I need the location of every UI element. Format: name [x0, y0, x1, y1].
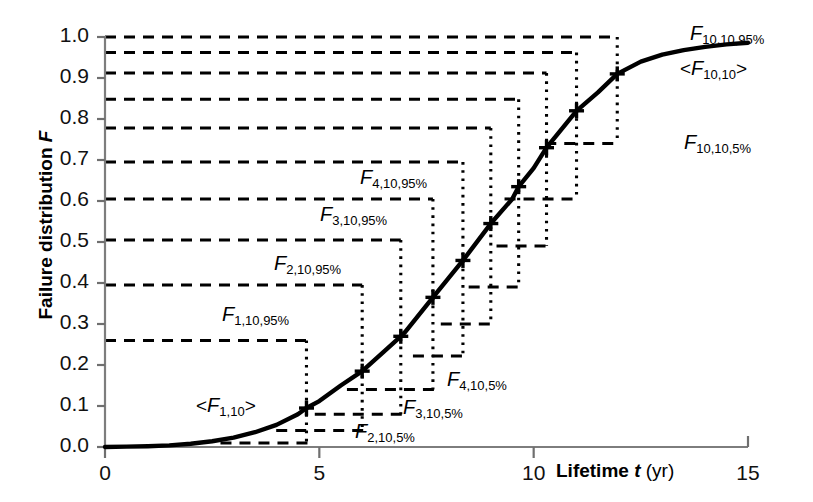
- y-tick-label: 0.1: [33, 392, 89, 416]
- annotation-symbol: F: [222, 303, 234, 325]
- annotation-subscript: 10,10,5%: [696, 141, 751, 156]
- angle-bracket-close: >: [245, 395, 256, 416]
- figure-root: 0.0 0.1 0.2 0.3 0.4 0.5 0.6 0.7 0.8 0.9 …: [0, 0, 813, 502]
- annotation-f3-95: F3,10,95%: [320, 203, 387, 226]
- x-axis-title: Lifetime t (yr): [556, 460, 674, 482]
- annotation-subscript: 10,10: [703, 67, 736, 82]
- angle-bracket-open: <: [680, 58, 691, 79]
- annotation-symbol: F: [690, 22, 702, 44]
- y-tick-label: 1.0: [33, 23, 89, 47]
- axes-lines: [97, 36, 748, 458]
- x-tick-label: 10: [514, 461, 554, 485]
- annotation-subscript: 2,10,5%: [367, 430, 415, 445]
- annotation-f10-95: F10,10,95%: [690, 22, 764, 45]
- angle-bracket-close: >: [736, 58, 747, 79]
- annotation-subscript: 4,10,95%: [372, 176, 427, 191]
- y-tick-label: 0.0: [33, 433, 89, 457]
- annotation-f1-95: F1,10,95%: [222, 303, 289, 326]
- annotation-f2-95: F2,10,95%: [274, 252, 341, 275]
- annotation-symbol: F: [360, 166, 372, 188]
- annotation-f4-95: F4,10,95%: [360, 166, 427, 189]
- annotation-symbol: F: [684, 131, 696, 153]
- x-axis-title-text: Lifetime: [556, 460, 629, 481]
- annotation-symbol: F: [320, 203, 332, 225]
- failure-distribution-curve: [105, 43, 748, 447]
- annotation-symbol: F: [403, 396, 415, 418]
- annotation-f3-5: F3,10,5%: [403, 396, 463, 419]
- annotation-subscript: 3,10,5%: [415, 406, 463, 421]
- annotation-symbol: F: [691, 57, 703, 79]
- x-axis-title-symbol: t: [634, 460, 640, 481]
- annotation-f4-5: F4,10,5%: [447, 368, 507, 391]
- x-tick-label: 15: [728, 461, 768, 485]
- annotation-subscript: 2,10,95%: [286, 262, 341, 277]
- annotation-subscript: 10,10,95%: [702, 32, 764, 47]
- annotation-symbol: F: [274, 252, 286, 274]
- x-tick-label: 5: [299, 461, 339, 485]
- annotation-f10-mean: <F10,10>: [680, 57, 747, 80]
- annotation-symbol: F: [355, 420, 367, 442]
- y-axis-title-symbol: F: [35, 131, 56, 143]
- annotation-f1-mean: <F1,10>: [196, 394, 256, 417]
- annotation-symbol: F: [207, 394, 219, 416]
- confidence-dashed-lines: [105, 37, 621, 443]
- angle-bracket-open: <: [196, 395, 207, 416]
- annotation-subscript: 3,10,95%: [332, 213, 387, 228]
- y-axis-title: Failure distribution F: [35, 75, 57, 375]
- y-axis-title-text: Failure distribution: [35, 142, 56, 319]
- failure-curve: [105, 43, 748, 447]
- x-tick-label: 0: [85, 461, 125, 485]
- x-axis-title-unit: (yr): [646, 460, 674, 481]
- annotation-subscript: 1,10,95%: [234, 313, 289, 328]
- annotation-f10-5: F10,10,5%: [684, 131, 751, 154]
- annotation-subscript: 4,10,5%: [459, 378, 507, 393]
- annotation-subscript: 1,10: [219, 404, 244, 419]
- annotation-symbol: F: [447, 368, 459, 390]
- annotation-f2-5: F2,10,5%: [355, 420, 415, 443]
